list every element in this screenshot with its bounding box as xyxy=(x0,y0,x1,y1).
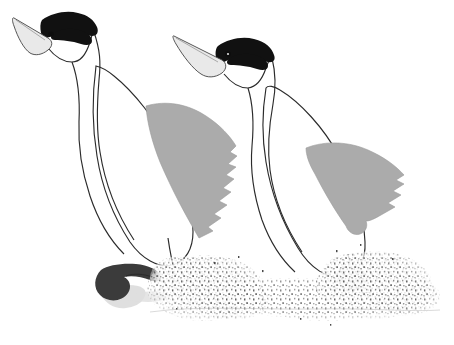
bird-illustration-svg xyxy=(0,0,454,345)
splash-right xyxy=(300,244,454,336)
bird-left-eye xyxy=(48,31,53,36)
bird-right-eye-highlight xyxy=(227,53,229,55)
illustration-canvas: Two water birds running across water gre… xyxy=(0,0,454,345)
